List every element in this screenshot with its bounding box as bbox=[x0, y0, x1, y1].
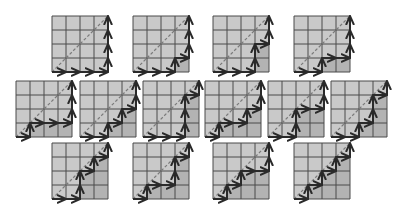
grid-cell bbox=[16, 81, 30, 95]
grid-cell bbox=[143, 109, 157, 123]
grid-cell bbox=[108, 109, 122, 123]
grid-cell bbox=[58, 123, 72, 137]
grid-cell bbox=[247, 95, 261, 109]
grid-cell bbox=[133, 143, 147, 157]
grid-cell bbox=[294, 30, 308, 44]
grid-cell bbox=[161, 58, 175, 72]
dyck-path-grid bbox=[294, 143, 350, 199]
grid-cell bbox=[359, 81, 373, 95]
grid-cell bbox=[345, 81, 359, 95]
grid-cell bbox=[255, 58, 269, 72]
grid-cell bbox=[213, 30, 227, 44]
grid-cell bbox=[52, 157, 66, 171]
grid-cell bbox=[308, 16, 322, 30]
dyck-path-grid bbox=[331, 81, 387, 137]
grid-cell bbox=[227, 157, 241, 171]
grid-cell bbox=[185, 123, 199, 137]
grid-cell bbox=[94, 123, 108, 137]
grid-cell bbox=[331, 81, 345, 95]
grid-cell bbox=[52, 171, 66, 185]
grid-cell bbox=[80, 95, 94, 109]
grid-cell bbox=[255, 157, 269, 171]
grid-cell bbox=[80, 58, 94, 72]
grid-cell bbox=[296, 109, 310, 123]
grid-cell bbox=[322, 185, 336, 199]
grid-cell bbox=[66, 143, 80, 157]
grid-cell bbox=[80, 44, 94, 58]
grid-cell bbox=[122, 109, 136, 123]
grid-cell bbox=[233, 81, 247, 95]
grid-cell bbox=[308, 58, 322, 72]
grid-cell bbox=[213, 16, 227, 30]
grid-cell bbox=[213, 171, 227, 185]
grid-cell bbox=[308, 30, 322, 44]
grid-cell bbox=[294, 16, 308, 30]
grid-cell bbox=[157, 81, 171, 95]
grid-cell bbox=[255, 30, 269, 44]
grid-cell bbox=[157, 95, 171, 109]
grid-cell bbox=[175, 171, 189, 185]
grid-cell bbox=[241, 44, 255, 58]
grid-cell bbox=[282, 81, 296, 95]
grid-cell bbox=[310, 109, 324, 123]
grid-cell bbox=[336, 171, 350, 185]
dyck-path-grid bbox=[268, 81, 324, 137]
grid-cell bbox=[373, 109, 387, 123]
grid-cell bbox=[175, 185, 189, 199]
dyck-path-grid bbox=[52, 16, 108, 72]
grid-cell bbox=[227, 16, 241, 30]
grid-cell bbox=[268, 81, 282, 95]
grid-cell bbox=[147, 30, 161, 44]
grid-cell bbox=[322, 58, 336, 72]
grid-cell bbox=[296, 123, 310, 137]
grid-cell bbox=[308, 143, 322, 157]
grid-cell bbox=[80, 109, 94, 123]
grid-cell bbox=[94, 185, 108, 199]
dyck-path-grid bbox=[143, 81, 199, 137]
grid-cell bbox=[233, 109, 247, 123]
grid-cell bbox=[175, 157, 189, 171]
grid-cell bbox=[94, 157, 108, 171]
grid-cell bbox=[296, 81, 310, 95]
grid-cell bbox=[359, 109, 373, 123]
grid-cell bbox=[336, 58, 350, 72]
grid-cell bbox=[205, 81, 219, 95]
grid-cell bbox=[147, 143, 161, 157]
grid-cell bbox=[185, 109, 199, 123]
grid-cell bbox=[161, 171, 175, 185]
dyck-path-grid bbox=[205, 81, 261, 137]
grid-cell bbox=[322, 171, 336, 185]
dyck-path-diagram-canvas bbox=[0, 0, 401, 214]
grid-cell bbox=[241, 171, 255, 185]
grid-cell bbox=[143, 95, 157, 109]
grid-cell bbox=[322, 16, 336, 30]
grid-cell bbox=[80, 16, 94, 30]
grid-cell bbox=[80, 143, 94, 157]
grid-cell bbox=[94, 58, 108, 72]
grid-cell bbox=[336, 30, 350, 44]
grid-cell bbox=[44, 109, 58, 123]
grid-cell bbox=[213, 157, 227, 171]
grid-cell bbox=[268, 95, 282, 109]
grid-cell bbox=[108, 123, 122, 137]
grid-cell bbox=[52, 30, 66, 44]
dyck-path-grid bbox=[133, 16, 189, 72]
grid-cell bbox=[219, 123, 233, 137]
grid-cell bbox=[336, 157, 350, 171]
grid-cell bbox=[241, 185, 255, 199]
grid-cell bbox=[282, 123, 296, 137]
grid-cell bbox=[30, 123, 44, 137]
grid-cell bbox=[157, 123, 171, 137]
grid-cell bbox=[58, 109, 72, 123]
grid-cell bbox=[219, 95, 233, 109]
grid-cell bbox=[331, 95, 345, 109]
grid-cell bbox=[58, 95, 72, 109]
diagram-collection bbox=[16, 16, 387, 199]
grid-cell bbox=[122, 95, 136, 109]
grid-cell bbox=[143, 81, 157, 95]
grid-cell bbox=[44, 81, 58, 95]
grid-cell bbox=[247, 123, 261, 137]
grid-cell bbox=[322, 143, 336, 157]
grid-cell bbox=[294, 171, 308, 185]
grid-cell bbox=[94, 30, 108, 44]
